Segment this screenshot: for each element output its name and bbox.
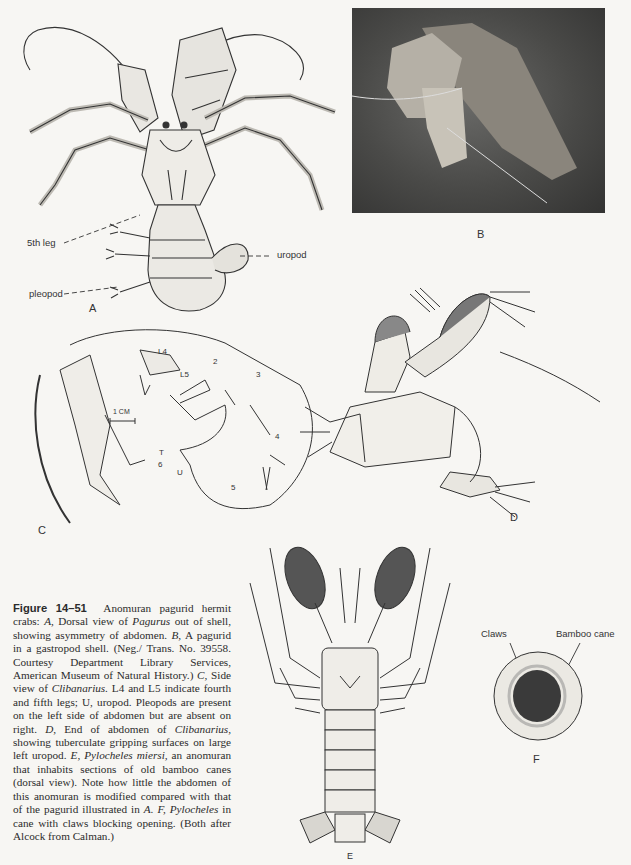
callout-pleopod: pleopod [29, 288, 63, 299]
caption-segment: Clibanarius, [175, 723, 231, 735]
mark-u: U [177, 468, 183, 477]
mark-4: 4 [275, 432, 279, 441]
panel-a-pagurus-dorsal: 5th leg uropod pleopod A [0, 0, 340, 320]
caption-body: Anomuran pagurid hermit crabs: A, Dorsal… [13, 602, 231, 842]
panel-e-pylocheles-dorsal: E [240, 538, 460, 865]
pagurus-drawing [0, 0, 340, 320]
hermit-crab-photo [352, 8, 605, 213]
mark-2: 2 [213, 357, 217, 366]
caption-segment: A, [44, 615, 54, 627]
panel-label-e: E [347, 851, 353, 861]
caption-segment: Dorsal view of [54, 615, 133, 627]
mark-6: 6 [158, 460, 162, 469]
panel-label-f: F [533, 753, 540, 765]
scale-bar-label: 1 CM [113, 408, 130, 415]
figure-number: Figure 14–51 [13, 602, 87, 614]
mark-5: 5 [231, 483, 235, 492]
panel-label-d: D [510, 511, 518, 523]
caption-segment: C, [197, 669, 207, 681]
caption-segment: B, [171, 629, 181, 641]
panel-label-b: B [477, 228, 484, 240]
abdomen-end-drawing [290, 282, 620, 522]
cane-cross-section [470, 628, 620, 758]
panel-label-c: C [38, 524, 46, 536]
panel-c-clibanarius-side: 1 CM L4 L5 2 3 4 5 T 6 U [30, 325, 290, 525]
caption-segment: Pagurus [132, 615, 170, 627]
caption-segment: End of abdomen of [56, 723, 175, 735]
panel-f-pylocheles-in-cane: Claws Bamboo cane F [470, 628, 620, 758]
mark-l4: L4 [158, 347, 167, 356]
caption-segment: Clibanarius. [52, 682, 108, 694]
panel-b-photograph [352, 8, 605, 213]
panel-label-a: A [89, 302, 96, 314]
callout-fifth-leg: 5th leg [27, 237, 56, 248]
caption-segment: D, [45, 723, 56, 735]
caption-segment: E, Pylocheles miersi, [71, 749, 168, 761]
figure-caption: Figure 14–51 Anomuran pagurid hermit cra… [13, 602, 231, 843]
mark-l5: L5 [180, 370, 189, 379]
caption-segment: A. F, Pylocheles [144, 803, 218, 815]
pylocheles-drawing [240, 538, 460, 865]
panel-d-abdomen-end: D [290, 282, 620, 522]
callout-uropod: uropod [277, 249, 307, 260]
mark-t: T [159, 448, 164, 457]
mark-3: 3 [256, 370, 260, 379]
